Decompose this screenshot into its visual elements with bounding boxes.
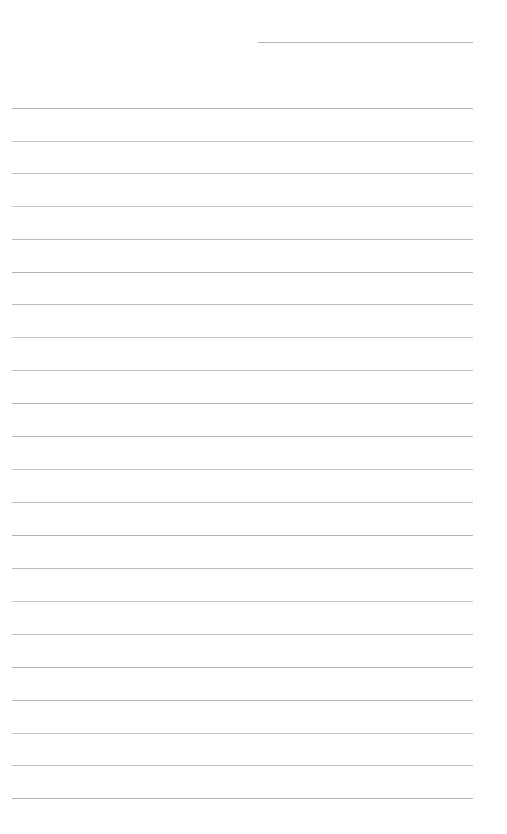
rule-line[interactable] <box>12 304 473 305</box>
rule-line[interactable] <box>12 733 473 734</box>
rule-line[interactable] <box>12 141 473 142</box>
rule-line[interactable] <box>12 535 473 536</box>
writing-area[interactable] <box>0 0 507 834</box>
rule-line[interactable] <box>12 601 473 602</box>
rule-line[interactable] <box>12 667 473 668</box>
rule-line[interactable] <box>12 337 473 338</box>
bottom-margin <box>0 799 507 834</box>
rule-line[interactable] <box>12 700 473 701</box>
rule-line[interactable] <box>12 502 473 503</box>
rule-line[interactable] <box>12 765 473 766</box>
rule-line[interactable] <box>12 370 473 371</box>
rule-line[interactable] <box>12 272 473 273</box>
rule-line[interactable] <box>12 436 473 437</box>
rule-line[interactable] <box>12 108 473 109</box>
rule-line[interactable] <box>12 173 473 174</box>
rule-line[interactable] <box>12 469 473 470</box>
rule-line[interactable] <box>12 568 473 569</box>
rule-line[interactable] <box>12 206 473 207</box>
rule-line[interactable] <box>12 239 473 240</box>
notepad-page <box>0 0 507 834</box>
rule-line[interactable] <box>12 403 473 404</box>
rule-line[interactable] <box>12 634 473 635</box>
